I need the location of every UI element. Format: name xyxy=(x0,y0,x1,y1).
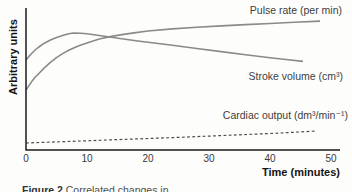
figure-caption-number: Figure 2 xyxy=(22,184,63,192)
figure-caption-clipped: Figure 2 Correlated changes in … xyxy=(22,184,182,192)
x-tick-30: 30 xyxy=(203,153,214,164)
exercise-physiology-figure: Arbitrary units Pulse rate (per min) Str… xyxy=(0,0,352,192)
x-tick-0: 0 xyxy=(23,153,29,164)
x-tick-40: 40 xyxy=(264,153,275,164)
cardiac-output-label: Cardiac output (dm³/min⁻¹) xyxy=(223,109,348,121)
figure-caption-text: Correlated changes in … xyxy=(66,184,182,192)
stroke-volume-label: Stroke volume (cm³) xyxy=(248,70,343,82)
x-axis-label: Time (minutes) xyxy=(262,166,340,178)
cardiac-output-line xyxy=(26,131,316,143)
x-tick-50: 50 xyxy=(325,153,336,164)
y-axis-label: Arbitrary units xyxy=(7,19,19,95)
stroke-volume-line xyxy=(26,33,303,61)
x-tick-20: 20 xyxy=(142,153,153,164)
x-tick-10: 10 xyxy=(81,153,92,164)
chart-canvas xyxy=(0,0,352,192)
pulse-rate-label: Pulse rate (per min) xyxy=(250,4,342,16)
